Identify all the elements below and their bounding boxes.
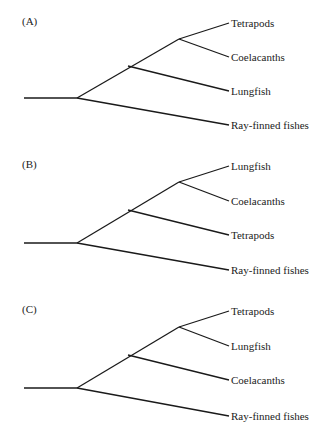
tip-label: Lungfish: [231, 160, 271, 172]
panel-label: (A): [22, 15, 37, 27]
tip-label: Tetrapods: [231, 17, 274, 29]
tip-label: Lungfish: [231, 340, 271, 352]
tip-label: Coelacanths: [231, 374, 285, 386]
tree-panel-a: (A) Tetrapods Coelacanths Lungfish Ray-f…: [0, 0, 329, 145]
panel-label: (C): [22, 303, 37, 315]
tip-label: Tetrapods: [231, 229, 274, 241]
tip-label: Coelacanths: [231, 51, 285, 63]
tip-label: Tetrapods: [231, 305, 274, 317]
tip-label: Lungfish: [231, 85, 271, 97]
panel-label: (B): [22, 158, 37, 170]
tip-label: Ray-finned fishes: [231, 264, 309, 276]
tip-label: Ray-finned fishes: [231, 410, 309, 422]
tree-panel-b: (B) Lungfish Coelacanths Tetrapods Ray-f…: [0, 145, 329, 290]
tree-panel-c: (C) Tetrapods Lungfish Coelacanths Ray-f…: [0, 290, 329, 435]
tip-label: Coelacanths: [231, 195, 285, 207]
tip-label: Ray-finned fishes: [231, 119, 309, 131]
